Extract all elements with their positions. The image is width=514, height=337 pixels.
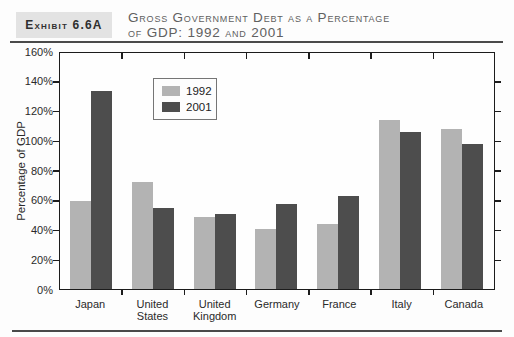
y-tick-label-0: 0% (12, 284, 53, 296)
bar-1992-canada (441, 129, 462, 289)
exhibit-title-line2: of GDP: 1992 and 2001 (128, 25, 390, 40)
exhibit-label: Exhibit 6.6A (25, 18, 102, 32)
x-tick-top-4 (308, 52, 310, 59)
legend-entry-1992: 1992 (162, 85, 216, 97)
bar-2001-united-kingdom (215, 214, 236, 289)
bar-1992-germany (255, 229, 276, 289)
category-cell-germany (246, 53, 308, 289)
bar-chart: Percentage of GDP 19922001 0%20%40%60%80… (0, 44, 514, 330)
x-category-label-italy: Italy (370, 299, 432, 311)
x-tick-bottom-2 (184, 289, 186, 295)
y-tick-label-140: 140% (12, 75, 53, 87)
category-cell-japan (60, 53, 122, 289)
x-tick-bottom-3 (246, 289, 248, 295)
x-tick-bottom-6 (433, 289, 435, 295)
x-tick-top-2 (184, 52, 186, 59)
header-divider (10, 41, 503, 43)
x-tick-bottom-1 (121, 289, 123, 295)
y-tick-right-80 (495, 170, 501, 172)
y-tick-label-40: 40% (12, 224, 53, 236)
y-tick-left-60 (53, 200, 59, 202)
x-tick-top-6 (433, 52, 435, 59)
legend: 19922001 (153, 78, 217, 120)
x-tick-top-5 (370, 52, 372, 59)
y-tick-right-100 (495, 141, 501, 143)
y-tick-right-20 (495, 260, 501, 262)
y-tick-left-20 (53, 260, 59, 262)
x-category-label-japan: Japan (59, 299, 121, 311)
y-tick-label-120: 120% (12, 105, 53, 117)
y-tick-label-60: 60% (12, 194, 53, 206)
legend-label-1992: 1992 (186, 85, 212, 97)
bar-2001-italy (400, 132, 421, 289)
category-cell-france (307, 53, 369, 289)
category-cell-canada (431, 53, 493, 289)
x-category-label-united-kingdom: United Kingdom (184, 299, 246, 322)
legend-swatch-1992 (162, 86, 180, 96)
exhibit-title: Gross Government Debt as a Percentage of… (128, 10, 390, 40)
exhibit-label-box: Exhibit 6.6A (16, 12, 112, 38)
y-tick-left-80 (53, 170, 59, 172)
x-category-label-canada: Canada (433, 299, 495, 311)
y-tick-left-40 (53, 230, 59, 232)
bar-2001-france (338, 196, 359, 289)
bar-1992-italy (379, 120, 400, 289)
x-tick-top-3 (246, 52, 248, 59)
y-tick-label-100: 100% (12, 135, 53, 147)
bar-2001-germany (276, 204, 297, 289)
exhibit-title-line1: Gross Government Debt as a Percentage (128, 10, 390, 25)
bar-1992-united-kingdom (194, 217, 215, 289)
x-tick-bottom-4 (308, 289, 310, 295)
y-tick-label-160: 160% (12, 46, 53, 58)
y-tick-right-120 (495, 111, 501, 113)
y-tick-left-120 (53, 111, 59, 113)
category-cell-italy (369, 53, 431, 289)
exhibit-page: Exhibit 6.6A Gross Government Debt as a … (0, 0, 514, 337)
bar-2001-japan (91, 91, 112, 289)
bar-1992-japan (70, 201, 91, 289)
y-tick-label-80: 80% (12, 165, 53, 177)
x-category-label-france: France (308, 299, 370, 311)
y-tick-left-100 (53, 141, 59, 143)
x-category-label-united-states: United States (121, 299, 183, 322)
footer-divider (12, 330, 502, 332)
y-tick-label-20: 20% (12, 254, 53, 266)
x-category-label-germany: Germany (246, 299, 308, 311)
bar-1992-united-states (132, 182, 153, 289)
bar-1992-france (317, 224, 338, 289)
y-tick-right-140 (495, 81, 501, 83)
y-tick-left-140 (53, 81, 59, 83)
y-tick-right-40 (495, 230, 501, 232)
y-tick-right-60 (495, 200, 501, 202)
legend-swatch-2001 (162, 102, 180, 112)
x-tick-bottom-5 (370, 289, 372, 295)
bar-2001-united-states (153, 208, 174, 289)
plot-area: 19922001 (59, 52, 495, 290)
legend-label-2001: 2001 (186, 101, 212, 113)
legend-entry-2001: 2001 (162, 101, 216, 113)
x-tick-top-1 (121, 52, 123, 59)
bar-2001-canada (462, 144, 483, 289)
